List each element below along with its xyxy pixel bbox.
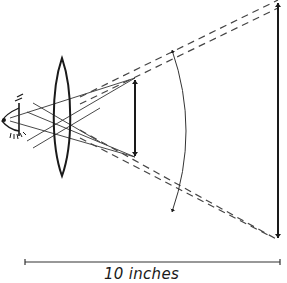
dashed-rays	[80, 0, 278, 240]
ray-lines	[10, 78, 135, 157]
optics-diagram	[0, 0, 287, 283]
angle-arc	[172, 50, 186, 212]
scale-label: 10 inches	[104, 265, 179, 283]
